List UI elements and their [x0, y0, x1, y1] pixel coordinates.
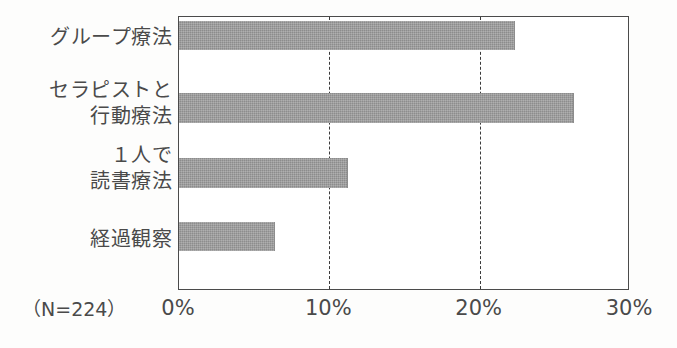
gridline-10-percent [329, 17, 330, 289]
category-label-therapist-behavioral-therapy: セラピストと 行動療法 [49, 77, 172, 129]
bar-therapist-behavioral-therapy [179, 93, 574, 123]
category-label-solo-bibliotherapy: １人で 読書療法 [90, 142, 172, 194]
bar-solo-bibliotherapy [179, 158, 348, 188]
xtick-label-0: 0% [161, 296, 194, 320]
gridline-20-percent [480, 17, 481, 289]
bar-group-therapy [179, 21, 515, 50]
sample-size-note: （N=224） [22, 298, 126, 320]
category-label-watchful-waiting: 経過観察 [90, 226, 172, 252]
bar-watchful-waiting [179, 222, 275, 251]
xtick-label-30: 30% [606, 296, 653, 320]
bar-chart-figure: グループ療法 セラピストと 行動療法 １人で 読書療法 経過観察 0% 10% … [0, 0, 677, 348]
xtick-label-20: 20% [455, 296, 502, 320]
xtick-label-10: 10% [305, 296, 352, 320]
category-label-group-therapy: グループ療法 [50, 24, 172, 50]
plot-area [178, 16, 629, 290]
